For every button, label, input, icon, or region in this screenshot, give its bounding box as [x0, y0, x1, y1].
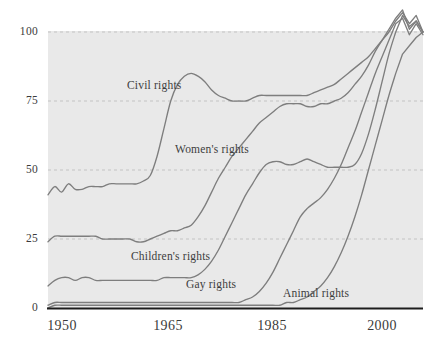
series-label-women-s-rights: Women's rights [175, 144, 249, 156]
series-label-animal-rights: Animal rights [283, 288, 349, 300]
series-label-children-s-rights: Children's rights [131, 251, 210, 263]
x-axis-tick-label: 1950 [32, 319, 92, 333]
series-label-civil-rights: Civil rights [127, 80, 181, 92]
series-line [48, 10, 423, 242]
series-line [48, 13, 423, 195]
series-lines [48, 10, 423, 308]
chart-canvas [0, 0, 441, 354]
x-axis-tick-label: 1965 [138, 319, 198, 333]
y-axis-tick-label: 25 [4, 233, 38, 245]
series-label-gay-rights: Gay rights [186, 279, 236, 291]
y-axis-tick-label: 100 [4, 26, 38, 38]
series-line [48, 18, 423, 305]
y-axis-tick-label: 50 [4, 164, 38, 176]
y-axis-tick-label: 0 [4, 302, 38, 314]
x-axis-tick-label: 2000 [352, 319, 412, 333]
gridlines [48, 32, 423, 239]
x-axis-tick-label: 1985 [242, 319, 302, 333]
line-chart: 0255075100 1950196519852000 Civil rights… [0, 0, 441, 354]
y-axis-tick-label: 75 [4, 95, 38, 107]
